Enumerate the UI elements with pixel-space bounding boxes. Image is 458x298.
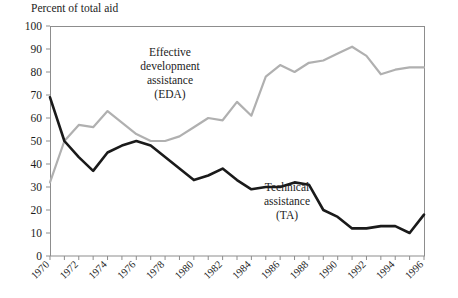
y-tick-label: 20: [31, 204, 43, 216]
series-line-ta: [50, 97, 424, 233]
x-axis-tick-labels: 1970197219741976197819801982198419861988…: [29, 258, 426, 281]
x-tick-label: 1970: [29, 259, 52, 282]
x-tick-label: 1990: [316, 259, 339, 282]
y-tick-label: 50: [31, 135, 43, 147]
y-tick-label: 80: [31, 66, 43, 78]
x-tick-label: 1984: [230, 258, 253, 281]
y-tick-label: 40: [31, 158, 43, 170]
x-tick-label: 1976: [115, 259, 138, 282]
y-axis-ticks: [46, 26, 50, 256]
x-tick-label: 1996: [403, 259, 426, 282]
y-tick-label: 10: [31, 227, 43, 239]
x-tick-label: 1986: [259, 259, 282, 282]
chart-figure: Percent of total aid 0102030405060708090…: [0, 0, 458, 298]
x-tick-label: 1980: [173, 259, 196, 282]
y-tick-label: 60: [31, 112, 43, 124]
plot-frame: [51, 27, 425, 257]
x-tick-label: 1974: [86, 258, 109, 281]
x-tick-label: 1992: [345, 259, 368, 282]
line-chart-plot: 0102030405060708090100 19701972197419761…: [0, 0, 458, 298]
y-tick-label: 100: [25, 20, 43, 32]
x-tick-label: 1972: [58, 259, 81, 282]
y-axis-tick-labels: 0102030405060708090100: [25, 20, 43, 262]
x-axis-ticks: [50, 256, 424, 260]
x-tick-label: 1994: [374, 258, 397, 281]
y-tick-label: 70: [31, 89, 43, 101]
x-tick-label: 1982: [201, 259, 224, 282]
series-line-eda: [50, 47, 424, 183]
y-tick-label: 90: [31, 43, 43, 55]
y-tick-label: 30: [31, 181, 43, 193]
annotation-ta: Technicalassistance(TA): [264, 181, 310, 222]
x-tick-label: 1988: [288, 259, 311, 282]
series-annotations: Effectivedevelopmentassistance(EDA)Techn…: [140, 46, 310, 222]
x-tick-label: 1978: [144, 259, 167, 282]
data-series-group: [50, 47, 424, 233]
annotation-eda: Effectivedevelopmentassistance(EDA): [140, 46, 200, 101]
